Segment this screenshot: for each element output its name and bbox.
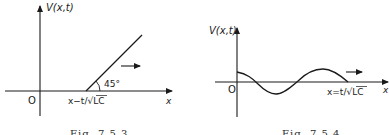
origin-label: O xyxy=(228,84,236,95)
origin-label: O xyxy=(28,95,36,106)
angle-label: 45° xyxy=(104,79,120,89)
figure-ramp-wave: V(x,t) O x 45° x−t/√LC Fig. 7.5.3 xyxy=(5,2,172,135)
angle-arc xyxy=(96,81,100,91)
y-axis-label: V(x,t) xyxy=(46,2,74,13)
diagram-canvas: V(x,t) O x 45° x−t/√LC Fig. 7.5.3 V(x,t)… xyxy=(0,0,389,135)
y-axis-label: V(x,t) xyxy=(209,25,237,36)
wave-front-label: x−t/√LC xyxy=(68,96,104,106)
x-axis-label: x xyxy=(382,85,389,95)
wave-front-label: x=t/√LC xyxy=(327,87,363,97)
x-axis-label: x xyxy=(165,96,172,106)
figure-sine-wave: V(x,t) O x x=t/√LC Fig. 7.5.4 xyxy=(209,25,389,135)
figure-caption: Fig. 7.5.3 xyxy=(70,128,128,135)
figure-caption: Fig. 7.5.4 xyxy=(282,128,340,135)
